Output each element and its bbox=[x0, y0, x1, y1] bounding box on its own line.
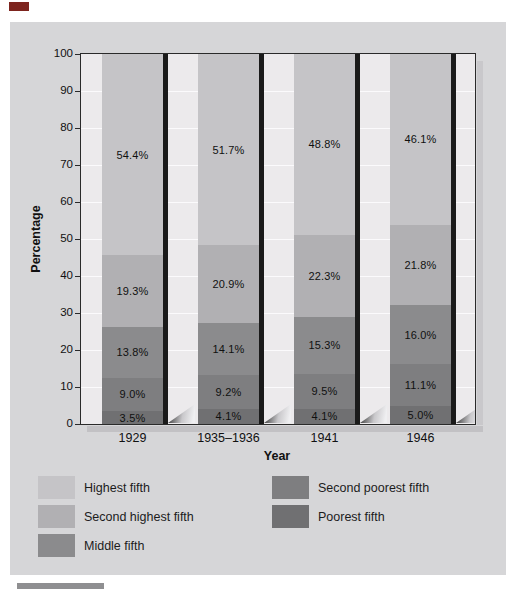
bar-segment: 51.7% bbox=[198, 54, 259, 245]
bar-shadow-strip bbox=[451, 54, 456, 424]
bar-value-label: 14.1% bbox=[212, 343, 244, 355]
bar-value-label: 15.3% bbox=[308, 339, 340, 351]
plot-shadow-right bbox=[477, 61, 483, 425]
figure-page: 3.5%9.0%13.8%19.3%54.4%4.1%9.2%14.1%20.9… bbox=[0, 0, 516, 597]
y-tick-label: 40 bbox=[41, 269, 73, 281]
bar-base-wedge bbox=[168, 404, 195, 423]
x-tick-label: 1941 bbox=[275, 431, 375, 445]
bottom-rule bbox=[17, 583, 104, 589]
bar-value-label: 51.7% bbox=[212, 144, 244, 156]
legend-label: Middle fifth bbox=[84, 539, 144, 553]
y-tick-mark bbox=[75, 350, 80, 351]
bar-segment: 5.0% bbox=[390, 406, 451, 425]
bar-value-label: 9.2% bbox=[216, 386, 242, 398]
bar-segment: 19.3% bbox=[102, 255, 163, 326]
y-axis-title: Percentage bbox=[29, 205, 43, 272]
bar-value-label: 4.1% bbox=[312, 410, 338, 422]
bar-value-label: 54.4% bbox=[116, 149, 148, 161]
legend-label: Highest fifth bbox=[84, 481, 150, 495]
bar-segment: 46.1% bbox=[390, 54, 451, 225]
bar-base-wedge bbox=[360, 404, 387, 423]
y-tick-label: 20 bbox=[41, 343, 73, 355]
bar-shadow-strip bbox=[259, 54, 264, 424]
bar-segment: 48.8% bbox=[294, 54, 355, 235]
bar-value-label: 11.1% bbox=[405, 379, 436, 391]
x-tick-label: 1935–1936 bbox=[179, 431, 279, 445]
bar-value-label: 9.5% bbox=[312, 385, 338, 397]
bar-shadow-strip bbox=[355, 54, 360, 424]
y-tick-label: 0 bbox=[41, 417, 73, 429]
y-tick-mark bbox=[75, 387, 80, 388]
bar-value-label: 13.8% bbox=[116, 346, 148, 358]
x-tick-label: 1929 bbox=[83, 431, 183, 445]
y-tick-mark bbox=[75, 313, 80, 314]
x-tick-label: 1946 bbox=[371, 431, 471, 445]
bar-segment: 13.8% bbox=[102, 327, 163, 378]
legend-item: Second poorest fifth bbox=[272, 476, 429, 499]
y-tick-label: 60 bbox=[41, 195, 73, 207]
y-tick-label: 100 bbox=[41, 47, 73, 59]
bar-value-label: 21.8% bbox=[404, 259, 436, 271]
legend-item: Poorest fifth bbox=[272, 505, 429, 528]
bar-segment: 11.1% bbox=[390, 364, 451, 405]
legend-swatch bbox=[272, 505, 309, 528]
y-tick-mark bbox=[75, 424, 80, 425]
plot-area: 3.5%9.0%13.8%19.3%54.4%4.1%9.2%14.1%20.9… bbox=[80, 53, 476, 425]
legend-item: Highest fifth bbox=[38, 476, 194, 499]
y-tick-mark bbox=[75, 54, 80, 55]
y-tick-label: 90 bbox=[41, 84, 73, 96]
y-tick-label: 30 bbox=[41, 306, 73, 318]
bar-value-label: 48.8% bbox=[308, 138, 340, 150]
bar-segment: 9.0% bbox=[102, 378, 163, 411]
bar-value-label: 5.0% bbox=[408, 409, 434, 421]
bar-segment: 3.5% bbox=[102, 411, 163, 424]
legend-swatch bbox=[38, 476, 75, 499]
top-marker bbox=[9, 2, 29, 11]
bar-1935–1936: 4.1%9.2%14.1%20.9%51.7% bbox=[198, 54, 259, 424]
bar-value-label: 46.1% bbox=[404, 133, 436, 145]
legend-item: Middle fifth bbox=[38, 534, 194, 557]
bar-segment: 9.2% bbox=[198, 375, 259, 409]
bar-value-label: 4.1% bbox=[216, 410, 242, 422]
bar-base-wedge bbox=[264, 404, 291, 423]
y-tick-label: 70 bbox=[41, 158, 73, 170]
x-axis-title: Year bbox=[227, 449, 327, 463]
legend-label: Poorest fifth bbox=[318, 510, 385, 524]
bar-segment: 20.9% bbox=[198, 245, 259, 322]
legend-label: Second poorest fifth bbox=[318, 481, 429, 495]
y-tick-label: 50 bbox=[41, 232, 73, 244]
legend-swatch bbox=[272, 476, 309, 499]
bar-value-label: 22.3% bbox=[308, 270, 340, 282]
bar-1946: 5.0%11.1%16.0%21.8%46.1% bbox=[390, 54, 451, 424]
y-tick-mark bbox=[75, 276, 80, 277]
bar-value-label: 20.9% bbox=[212, 278, 244, 290]
bar-value-label: 9.0% bbox=[120, 388, 146, 400]
legend-item: Second highest fifth bbox=[38, 505, 194, 528]
legend-column-1: Highest fifthSecond highest fifthMiddle … bbox=[38, 476, 194, 557]
bar-segment: 4.1% bbox=[294, 409, 355, 424]
y-tick-label: 10 bbox=[41, 380, 73, 392]
y-tick-mark bbox=[75, 91, 80, 92]
y-tick-mark bbox=[75, 202, 80, 203]
bar-shadow-strip bbox=[163, 54, 168, 424]
bar-value-label: 19.3% bbox=[116, 285, 148, 297]
legend-label: Second highest fifth bbox=[84, 510, 194, 524]
legend-swatch bbox=[38, 534, 75, 557]
bar-1929: 3.5%9.0%13.8%19.3%54.4% bbox=[102, 54, 163, 424]
bar-value-label: 3.5% bbox=[120, 412, 146, 424]
bar-segment: 54.4% bbox=[102, 54, 163, 255]
bar-segment: 21.8% bbox=[390, 225, 451, 306]
bar-segment: 22.3% bbox=[294, 235, 355, 318]
y-tick-mark bbox=[75, 165, 80, 166]
bar-segment: 9.5% bbox=[294, 374, 355, 409]
legend-column-2: Second poorest fifthPoorest fifth bbox=[272, 476, 429, 528]
bar-segment: 4.1% bbox=[198, 409, 259, 424]
bar-1941: 4.1%9.5%15.3%22.3%48.8% bbox=[294, 54, 355, 424]
bar-segment: 14.1% bbox=[198, 323, 259, 375]
bar-segment: 15.3% bbox=[294, 317, 355, 374]
y-tick-label: 80 bbox=[41, 121, 73, 133]
legend-swatch bbox=[38, 505, 75, 528]
bar-segment: 16.0% bbox=[390, 305, 451, 364]
y-tick-mark bbox=[75, 128, 80, 129]
bar-value-label: 16.0% bbox=[404, 329, 436, 341]
